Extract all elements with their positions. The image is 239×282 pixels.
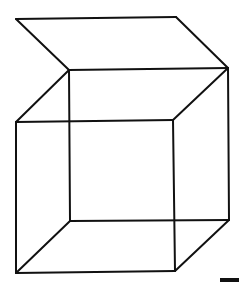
edge-back-top-right-to-back-bottom-right (228, 68, 229, 220)
edge-front-bottom-left-to-front-bottom-right (16, 271, 175, 273)
edge-front-top-left-to-front-top-right (16, 120, 173, 122)
edge-back-bottom-left-to-back-bottom-right (70, 220, 229, 221)
edge-lid-back-right-to-back-top-right (176, 17, 228, 68)
edge-lid-back-left-to-lid-back-right (16, 17, 176, 19)
edge-lid-back-left-to-back-top-left (16, 19, 69, 70)
open-box-diagram (0, 0, 239, 282)
edge-back-bottom-left-to-front-bottom-left (16, 221, 70, 273)
edge-back-top-left-to-front-top-left (16, 70, 69, 122)
edge-back-top-right-to-front-top-right (173, 68, 228, 120)
edge-front-top-right-to-front-bottom-right (173, 120, 175, 271)
edge-back-top-left-to-back-bottom-left (69, 70, 70, 221)
edge-back-top-left-to-back-top-right (69, 68, 228, 70)
edge-back-bottom-right-to-front-bottom-right (175, 220, 229, 271)
box-edges (16, 17, 229, 273)
corner-mark (220, 278, 239, 282)
